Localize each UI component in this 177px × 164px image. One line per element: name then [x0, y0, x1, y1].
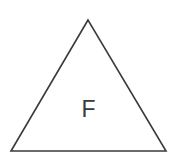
triangle-label: F [81, 96, 95, 122]
triangle-shape [11, 20, 166, 151]
triangle-diagram: F [0, 0, 177, 164]
